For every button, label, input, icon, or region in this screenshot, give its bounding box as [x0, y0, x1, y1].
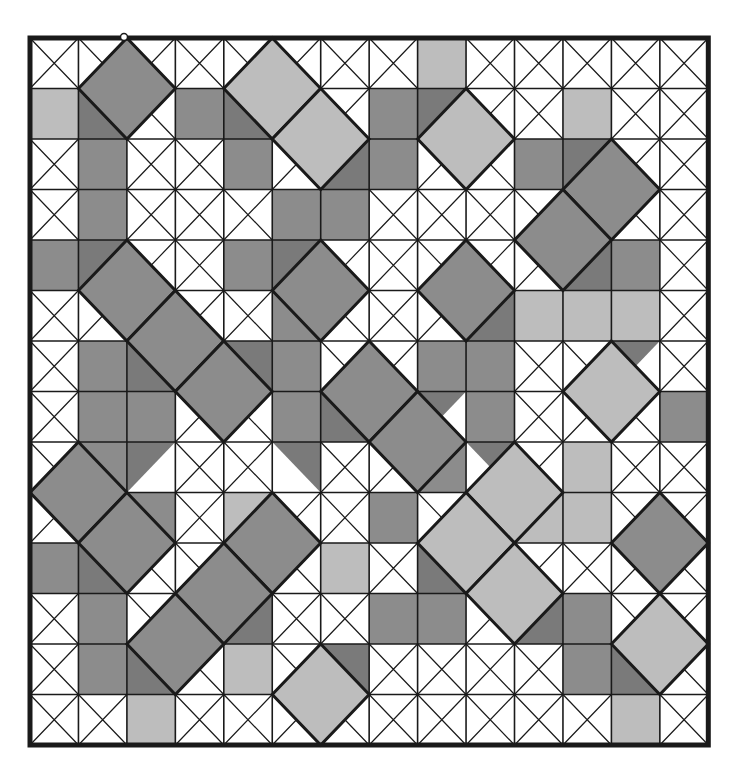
square-tile: [466, 341, 514, 392]
square-tile: [418, 38, 466, 89]
square-tile: [224, 240, 272, 291]
square-tile: [224, 139, 272, 190]
square-tile: [78, 644, 126, 695]
marker-dot: [121, 34, 128, 41]
square-tile: [272, 190, 320, 241]
square-tile: [418, 594, 466, 645]
square-tile: [30, 240, 78, 291]
square-tile: [78, 139, 126, 190]
square-tile: [611, 291, 659, 342]
square-tile: [660, 392, 708, 443]
square-tile: [78, 190, 126, 241]
square-tile: [563, 493, 611, 544]
square-tile: [78, 341, 126, 392]
square-tile: [515, 291, 563, 342]
tiling-board: [0, 0, 737, 768]
square-tile: [224, 644, 272, 695]
square-tile: [30, 89, 78, 140]
square-tile: [563, 442, 611, 493]
square-tile: [369, 89, 417, 140]
square-tile: [175, 89, 223, 140]
square-tile: [563, 644, 611, 695]
square-tile: [563, 291, 611, 342]
square-tile: [563, 594, 611, 645]
square-tile: [30, 543, 78, 594]
square-tile: [321, 543, 369, 594]
square-tile: [272, 392, 320, 443]
square-tile: [563, 89, 611, 140]
square-tile: [611, 695, 659, 746]
square-tile: [272, 341, 320, 392]
square-tile: [321, 190, 369, 241]
square-tile: [369, 594, 417, 645]
square-tile: [369, 493, 417, 544]
square-tile: [127, 392, 175, 443]
square-tile: [418, 341, 466, 392]
square-tile: [127, 695, 175, 746]
square-tile: [611, 240, 659, 291]
square-tile: [369, 139, 417, 190]
square-tile: [78, 594, 126, 645]
square-tile: [515, 139, 563, 190]
square-tile: [78, 392, 126, 443]
square-tile: [466, 392, 514, 443]
